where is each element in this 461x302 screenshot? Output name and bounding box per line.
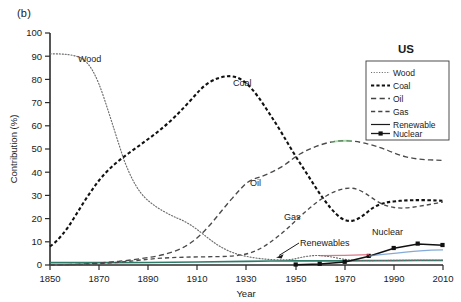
x-tick-label-1890: 1890 [137, 273, 158, 284]
legend-label-nuclear: Nuclear [393, 129, 422, 139]
y-tick-label-100: 100 [26, 27, 42, 38]
x-tick-label-1930: 1930 [235, 273, 256, 284]
legend-label-oil: Oil [393, 94, 404, 104]
y-ticks: 0 10 20 30 40 50 60 70 80 90 100 [26, 27, 50, 270]
legend-label-wood: Wood [393, 68, 415, 78]
artifact-stroke-red [320, 255, 369, 256]
y-tick-label-50: 50 [31, 143, 42, 154]
annotation-wood: Wood [78, 54, 101, 64]
x-tick-label-1990: 1990 [383, 273, 404, 284]
x-tick-label-1950: 1950 [285, 273, 306, 284]
annotation-leader-renewables [279, 243, 299, 256]
legend-label-coal: Coal [393, 81, 411, 91]
x-tick-label-1870: 1870 [88, 273, 109, 284]
figure-panel: (b) 0 10 20 30 40 50 60 70 [0, 0, 461, 302]
x-tick-label-1850: 1850 [39, 273, 60, 284]
annotation-renewables: Renewables [300, 238, 350, 248]
y-tick-label-0: 0 [37, 259, 42, 270]
annotation-gas: Gas [284, 212, 301, 222]
y-axis-title: Contribution (%) [8, 115, 19, 184]
x-axis-title: Year [236, 288, 255, 299]
annotation-nuclear: Nuclear [372, 227, 403, 237]
x-tick-label-1970: 1970 [334, 273, 355, 284]
x-ticks: 1850 1870 1890 1910 1930 1950 1970 1990 … [39, 265, 453, 284]
legend-marker-nuclear [379, 131, 383, 135]
y-tick-label-80: 80 [31, 74, 42, 85]
annotation-oil: Oil [250, 178, 261, 188]
x-tick-label-1910: 1910 [186, 273, 207, 284]
x-tick-label-2010: 2010 [432, 273, 453, 284]
annotation-coal: Coal [233, 78, 252, 88]
artifact-stroke-green [331, 141, 352, 142]
y-tick-label-10: 10 [31, 236, 42, 247]
y-tick-label-30: 30 [31, 190, 42, 201]
series-annotations: Wood Coal Oil Gas Renewables Nuclear [78, 54, 403, 258]
legend-title: US [398, 43, 414, 55]
y-tick-label-20: 20 [31, 213, 42, 224]
legend-label-gas: Gas [393, 107, 409, 117]
legend: US Wood Coal Oil Gas Renewable Nuclear [366, 43, 449, 140]
y-tick-label-70: 70 [31, 97, 42, 108]
chart-svg: 0 10 20 30 40 50 60 70 80 90 100 1850 18… [0, 0, 461, 302]
y-tick-label-60: 60 [31, 120, 42, 131]
y-tick-label-90: 90 [31, 51, 42, 62]
y-tick-label-40: 40 [31, 167, 42, 178]
